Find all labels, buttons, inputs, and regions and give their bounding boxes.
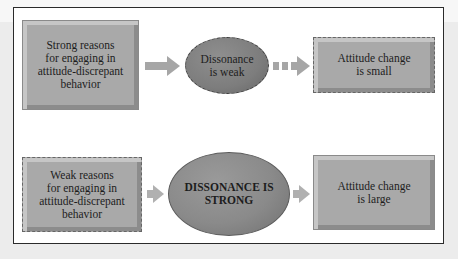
strong-reasons-line2: for engaging in: [38, 52, 124, 65]
dissonance-weak-line2: is weak: [200, 66, 253, 79]
weak-reasons-box: Weak reasons for engaging in attitude-di…: [22, 157, 142, 232]
short-arrow-right-icon: [147, 185, 165, 203]
attitude-small-line2: is small: [337, 65, 410, 78]
strong-reasons-box: Strong reasons for engaging in attitude-…: [22, 20, 139, 110]
attitude-large-line2: is large: [337, 193, 410, 206]
strong-reasons-line3: attitude-discrepant: [38, 65, 124, 78]
dissonance-strong-line2: STRONG: [184, 194, 273, 207]
weak-reasons-line4: behavior: [39, 208, 125, 221]
attitude-small-line1: Attitude change: [337, 52, 410, 65]
attitude-change-small-box: Attitude change is small: [313, 37, 435, 93]
dissonance-weak-ellipse: Dissonance is weak: [185, 37, 269, 94]
weak-reasons-line2: for engaging in: [39, 182, 125, 195]
arrow-right-icon: [145, 56, 181, 76]
dissonance-strong-ellipse: DISSONANCE IS STRONG: [168, 152, 290, 236]
dotted-arrow-right-icon: [273, 56, 311, 76]
short-arrow-right-icon: [293, 185, 311, 203]
dissonance-weak-line1: Dissonance: [200, 53, 253, 66]
attitude-change-large-box: Attitude change is large: [313, 155, 435, 230]
dissonance-strong-line1: DISSONANCE IS: [184, 181, 273, 194]
weak-reasons-line1: Weak reasons: [39, 169, 125, 182]
weak-reasons-line3: attitude-discrepant: [39, 195, 125, 208]
strong-reasons-line4: behavior: [38, 78, 124, 91]
strong-reasons-line1: Strong reasons: [38, 39, 124, 52]
attitude-large-line1: Attitude change: [337, 180, 410, 193]
